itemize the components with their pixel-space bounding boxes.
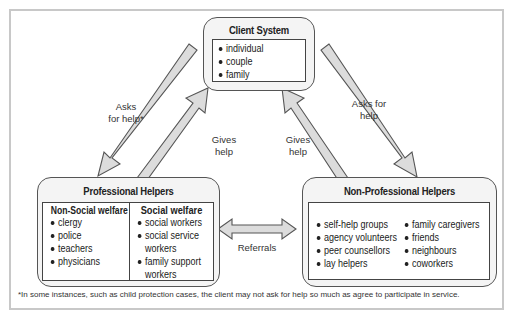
list-item: social workers bbox=[136, 216, 205, 229]
list-item: lay helpers bbox=[315, 257, 394, 270]
arrow-referrals bbox=[218, 219, 296, 239]
list-item: physicians bbox=[49, 255, 121, 268]
list-item: family bbox=[217, 68, 293, 81]
non-social-welfare-column: Non-Social welfare clergy police teacher… bbox=[43, 203, 130, 280]
non-social-welfare-heading: Non-Social welfare bbox=[51, 204, 122, 216]
label-gives-help-left: Gives help bbox=[204, 134, 244, 158]
professional-helpers-table: Non-Social welfare clergy police teacher… bbox=[42, 202, 214, 281]
social-welfare-column: Social welfare social workers social ser… bbox=[130, 203, 213, 280]
social-welfare-heading: Social welfare bbox=[135, 204, 208, 216]
list-item: teachers bbox=[49, 242, 121, 255]
list-item: social service bbox=[136, 229, 205, 242]
professional-helpers-title: Professional Helpers bbox=[47, 185, 210, 197]
list-item: neighbours bbox=[403, 244, 480, 257]
non-professional-helpers-title: Non-Professional Helpers bbox=[313, 185, 487, 197]
list-item: individual bbox=[217, 42, 293, 55]
list-item: peer counsellors bbox=[315, 244, 394, 257]
list-item: self-help groups bbox=[315, 218, 394, 231]
client-system-box: Client System individual couple family bbox=[203, 17, 315, 91]
list-item: family caregivers bbox=[403, 218, 480, 231]
non-professional-helpers-list: self-help groups agency volunteers peer … bbox=[308, 202, 490, 280]
list-item: friends bbox=[403, 231, 480, 244]
label-referrals: Referrals bbox=[226, 242, 288, 254]
list-item-continuation: workers bbox=[136, 268, 205, 281]
client-system-list: individual couple family bbox=[212, 39, 306, 82]
list-item: clergy bbox=[49, 216, 121, 229]
list-item: family support bbox=[136, 255, 205, 268]
label-asks-for-help-left: Asks for help* bbox=[96, 101, 156, 125]
list-item: coworkers bbox=[403, 257, 480, 270]
non-professional-helpers-box: Non-Professional Helpers self-help group… bbox=[302, 177, 497, 287]
list-item: police bbox=[49, 229, 121, 242]
list-item-continuation: workers bbox=[136, 242, 205, 255]
client-system-title: Client System bbox=[210, 24, 309, 36]
professional-helpers-box: Professional Helpers Non-Social welfare … bbox=[37, 177, 220, 287]
footnote: *In some instances, such as child protec… bbox=[18, 290, 460, 299]
list-item: couple bbox=[217, 55, 293, 68]
list-item: agency volunteers bbox=[315, 231, 394, 244]
label-gives-help-right: Gives help bbox=[278, 134, 318, 158]
label-asks-for-help-right: Asks for help bbox=[344, 98, 394, 122]
